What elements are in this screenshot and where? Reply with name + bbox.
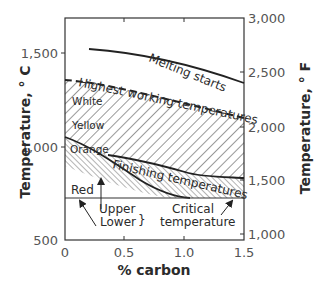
y-right-tick-2500: 2,500 — [248, 65, 285, 80]
critical-label: Critical — [172, 202, 214, 216]
lower-arrow — [80, 201, 96, 226]
melting-starts-label: Melting starts — [147, 51, 229, 95]
orange-label: Orange — [70, 143, 109, 155]
y-right-tick-3000: 3,000 — [248, 11, 285, 26]
y-left-tick-500: 500 — [33, 233, 58, 248]
white-label: White — [72, 95, 103, 107]
y-right-tick-1500: 1,500 — [248, 173, 285, 188]
red-label: Red — [71, 183, 94, 197]
lower-label: Lower — [100, 215, 136, 229]
x-axis-title: % carbon — [117, 262, 190, 278]
critical-arrow — [221, 201, 232, 215]
y-right-tick-2000: 2,000 — [248, 120, 285, 135]
temperature-label: temperature — [160, 215, 235, 229]
yellow-label: Yellow — [71, 119, 105, 131]
x-tick-1.5: 1.5 — [234, 245, 255, 260]
upper-label: Upper — [99, 202, 135, 216]
brace: } — [138, 213, 146, 227]
y-right-tick-1000: 1,000 — [248, 227, 285, 242]
y-left-tick-1500: 1,500 — [21, 46, 58, 61]
x-tick-1.0: 1.0 — [174, 245, 195, 260]
x-tick-0.5: 0.5 — [114, 245, 135, 260]
x-tick-0: 0 — [61, 245, 69, 260]
y-axis-left-title: Temperature, ° C — [17, 65, 33, 198]
forging-temperature-chart: Melting starts Highest working temperatu… — [0, 0, 318, 290]
y-axis-right-title: Temperature, ° F — [297, 62, 313, 194]
